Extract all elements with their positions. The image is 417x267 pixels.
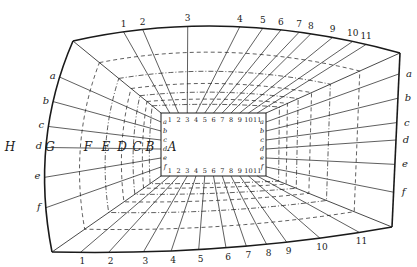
inner-bottom-number: 10	[244, 167, 252, 175]
outer-right-letter: a	[406, 68, 412, 79]
outer-top-number: 4	[237, 14, 243, 24]
right-wall-ray	[266, 123, 397, 140]
outer-bottom-number: 4	[170, 255, 176, 265]
floor-ray	[257, 176, 359, 232]
inner-left-letter: c	[163, 136, 167, 144]
inner-bottom-number: 2	[176, 167, 180, 175]
outer-top-number: 10	[347, 28, 359, 38]
depth-letter: H	[4, 140, 16, 154]
ceiling-ray	[249, 41, 353, 113]
floor-ray	[231, 176, 267, 244]
inner-top-number: 10	[244, 116, 252, 124]
left-wall-ray	[48, 126, 161, 140]
inner-bottom-number: 7	[220, 167, 224, 175]
inner-right-letter: d	[260, 145, 264, 153]
outer-left-letter: c	[39, 119, 45, 130]
corner-edge	[52, 176, 161, 252]
ceiling-ray	[196, 27, 240, 113]
inner-left-letter: a	[163, 118, 167, 126]
inner-bottom-number: 8	[229, 167, 233, 175]
outer-bottom-number: 9	[286, 246, 292, 256]
perspective-grid-diagram: 1111222233334444555566667777888899991010…	[0, 0, 417, 267]
inner-left-letter: d	[163, 145, 167, 153]
outer-top-number: 9	[330, 24, 336, 34]
inner-bottom-number: 9	[238, 167, 242, 175]
outer-top-number: 5	[260, 15, 266, 25]
inner-bottom-number: 4	[194, 167, 198, 175]
right-wall-ray	[266, 158, 395, 164]
corner-edge	[266, 53, 400, 113]
inner-top-number: 4	[194, 116, 198, 124]
outer-top-number: 2	[140, 17, 146, 27]
outer-bottom-number: 3	[143, 256, 149, 266]
grid-drawing: 1111222233334444555566667777888899991010…	[0, 0, 417, 267]
inner-bottom-number: 1	[168, 167, 172, 175]
outer-right-letter: e	[402, 158, 408, 169]
inner-top-number: 2	[176, 116, 180, 124]
floor-ray	[171, 176, 196, 251]
inner-right-letter: b	[260, 127, 264, 135]
outer-left-letter: e	[35, 170, 41, 181]
ceiling-ray	[240, 37, 333, 113]
inner-left-letter: e	[163, 154, 167, 162]
ceiling-ray	[143, 30, 179, 113]
floor-ray	[143, 176, 187, 252]
inner-left-letter: b	[163, 127, 167, 135]
outer-bottom-number: 7	[245, 250, 251, 260]
outer-right-letter: d	[403, 134, 409, 145]
floor-ray	[214, 176, 227, 248]
outer-left-letter: a	[50, 70, 56, 81]
inner-top-number: 8	[229, 116, 233, 124]
corner-edge	[266, 176, 392, 227]
outer-bottom-edge	[52, 227, 392, 252]
right-wall-ray	[266, 140, 396, 149]
outer-bottom-number: 6	[225, 252, 231, 262]
outer-left-letter: b	[43, 95, 49, 106]
depth-letter: E	[101, 140, 111, 154]
inner-bottom-number: 6	[211, 167, 215, 175]
outer-right-letter: b	[405, 92, 411, 103]
outer-top-number: 1	[121, 19, 127, 29]
outer-bottom-number: 1	[80, 256, 86, 266]
outer-left-letter: d	[36, 140, 42, 151]
depth-letter: A	[167, 140, 177, 154]
depth-letter: C	[132, 140, 141, 154]
inner-top-number: 6	[211, 116, 215, 124]
outer-top-number: 8	[308, 21, 314, 31]
outer-bottom-number: 2	[108, 256, 114, 266]
inner-bottom-number: 3	[185, 167, 189, 175]
inner-bottom-number: 5	[203, 167, 207, 175]
outer-top-number: 6	[278, 17, 284, 27]
inner-right-letter: a	[260, 118, 264, 126]
inner-right-letter: c	[260, 136, 264, 144]
inner-top-number: 9	[238, 116, 242, 124]
inner-right-letter: e	[260, 154, 264, 162]
depth-letter: D	[116, 140, 127, 154]
depth-letter: F	[83, 140, 93, 154]
inner-top-number: 3	[185, 116, 189, 124]
inner-top-number: 7	[220, 116, 224, 124]
depth-letter: G	[45, 140, 55, 154]
floor-ray	[80, 176, 169, 252]
outer-right-letter: c	[404, 117, 410, 128]
outer-left-letter: f	[36, 201, 43, 212]
outer-bottom-number: 11	[356, 236, 367, 246]
outer-right-letter: f	[401, 186, 408, 197]
ceiling-ray	[231, 34, 311, 113]
outer-top-number: 11	[360, 31, 371, 41]
outer-bottom-number: 10	[316, 242, 328, 252]
floor-ray	[199, 176, 205, 250]
right-wall-ray	[266, 167, 394, 192]
inner-top-number: 5	[203, 116, 207, 124]
outer-bottom-number: 5	[198, 254, 204, 264]
floor-ray	[240, 176, 287, 242]
inner-top-number: 1	[168, 116, 172, 124]
outer-top-number: 3	[185, 13, 191, 23]
depth-letter: B	[145, 140, 155, 154]
outer-top-number: 7	[296, 19, 302, 29]
left-wall-ray	[45, 158, 161, 177]
left-wall-ray	[60, 77, 161, 122]
outer-bottom-number: 8	[266, 248, 272, 258]
